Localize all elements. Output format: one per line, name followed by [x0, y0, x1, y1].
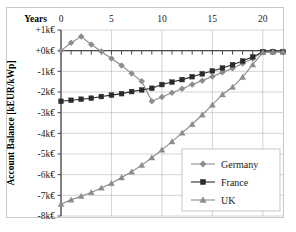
data-point-square — [149, 86, 154, 91]
data-point-square — [210, 69, 215, 74]
chart-container: +1k€+0k€-1k€-2k€-3k€-4k€-5k€-6k€-7k€-8k€… — [0, 0, 296, 232]
y-tick-label: -2k€ — [38, 87, 56, 97]
data-point-square — [230, 62, 235, 67]
data-point-square — [79, 97, 84, 102]
data-point-square — [170, 80, 175, 85]
chart-plot-svg: +1k€+0k€-1k€-2k€-3k€-4k€-5k€-6k€-7k€-8k€… — [0, 0, 296, 232]
data-point-diamond — [189, 82, 195, 88]
data-point-square — [119, 91, 124, 96]
data-point-square — [69, 98, 74, 103]
data-point-square — [200, 71, 205, 76]
y-tick-label: +0k€ — [35, 46, 55, 56]
ytick-labels-group: +1k€+0k€-1k€-2k€-3k€-4k€-5k€-6k€-7k€-8k€ — [35, 25, 55, 221]
data-point-square — [200, 179, 205, 184]
legend-label: Germany — [221, 159, 258, 170]
data-point-square — [240, 59, 245, 64]
data-point-diamond — [209, 74, 215, 80]
data-point-diamond — [159, 94, 165, 100]
data-point-square — [250, 54, 255, 59]
y-tick-label: -8k€ — [38, 211, 56, 221]
x-tick-label: 20 — [258, 14, 268, 24]
y-tick-label: +1k€ — [35, 25, 55, 35]
data-point-triangle — [129, 169, 135, 174]
y-tick-label: -1k€ — [38, 67, 56, 77]
data-point-square — [89, 96, 94, 101]
y-tick-label: -3k€ — [38, 108, 56, 118]
data-point-triangle — [119, 175, 125, 180]
data-point-diamond — [179, 86, 185, 92]
data-point-square — [129, 89, 134, 94]
xtick-labels-group: 05101520 — [59, 14, 268, 24]
data-point-square — [220, 66, 225, 71]
legend-group: GermanyFranceUK — [182, 149, 280, 211]
data-point-triangle — [88, 189, 94, 194]
y-tick-label: -7k€ — [38, 191, 56, 201]
x-tick-label: 15 — [208, 14, 218, 24]
y-tick-label: -5k€ — [38, 149, 56, 159]
data-point-diamond — [169, 90, 175, 96]
data-point-square — [109, 93, 114, 98]
data-point-square — [190, 74, 195, 79]
data-point-square — [139, 88, 144, 93]
data-point-diamond — [149, 98, 155, 104]
data-point-square — [59, 99, 64, 104]
x-axis-title: Years — [24, 14, 47, 24]
data-point-square — [160, 82, 165, 87]
data-point-diamond — [199, 78, 205, 84]
legend-label: France — [221, 177, 249, 188]
legend-label: UK — [221, 195, 236, 206]
y-tick-label: -6k€ — [38, 170, 56, 180]
data-point-square — [99, 94, 104, 99]
data-point-square — [180, 77, 185, 82]
series-germany — [58, 34, 286, 105]
x-tick-label: 10 — [157, 14, 167, 24]
x-tick-label: 0 — [59, 14, 64, 24]
x-tick-label: 5 — [109, 14, 114, 24]
axis-titles-group: YearsAccount Balance [kEUR/kWp] — [6, 14, 47, 186]
data-point-triangle — [98, 185, 104, 190]
y-axis-title: Account Balance [kEUR/kWp] — [6, 60, 16, 185]
y-tick-label: -4k€ — [38, 129, 56, 139]
data-point-triangle — [108, 180, 114, 185]
